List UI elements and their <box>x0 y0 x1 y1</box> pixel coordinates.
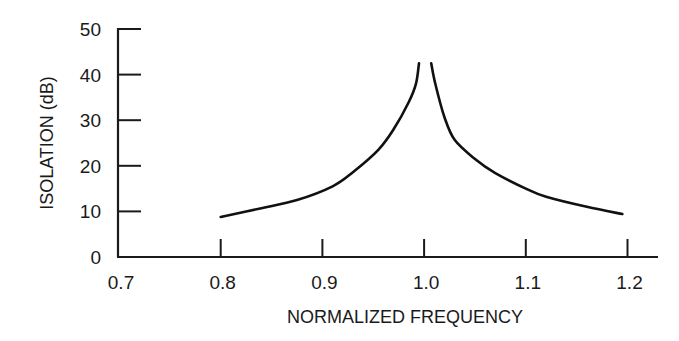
y-axis: 01020304050 <box>80 19 141 268</box>
curve-isolation-lower-branch <box>221 63 419 217</box>
y-tick-label: 50 <box>80 19 101 40</box>
isolation-chart: 01020304050 0.70.80.91.01.11.2 NORMALIZE… <box>0 0 679 341</box>
y-tick-label: 20 <box>80 156 101 177</box>
x-tick-label: 0.9 <box>311 272 337 293</box>
y-tick-label: 10 <box>80 201 101 222</box>
curve-isolation-upper-branch <box>431 63 622 214</box>
y-axis-title: ISOLATION (dB) <box>37 76 57 210</box>
x-tick-label: 0.7 <box>108 272 134 293</box>
plot-curves <box>221 63 623 217</box>
x-tick-label: 1.1 <box>515 272 541 293</box>
x-tick-label: 1.0 <box>413 272 439 293</box>
y-tick-label: 30 <box>80 110 101 131</box>
x-axis: 0.70.80.91.01.11.2 <box>108 239 658 293</box>
y-tick-label: 0 <box>90 247 101 268</box>
x-axis-title: NORMALIZED FREQUENCY <box>287 307 523 327</box>
x-tick-label: 1.2 <box>616 272 642 293</box>
x-tick-label: 0.8 <box>209 272 235 293</box>
y-tick-label: 40 <box>80 65 101 86</box>
